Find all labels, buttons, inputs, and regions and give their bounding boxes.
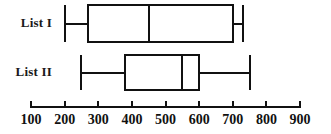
row-label-list-1: List I — [0, 15, 52, 31]
axis-tick-label-900: 900 — [290, 112, 311, 128]
box-list-ii — [125, 55, 199, 90]
axis-tick-label-600: 600 — [189, 112, 210, 128]
axis-tick-label-400: 400 — [121, 112, 142, 128]
axis-tick-label-800: 800 — [256, 112, 277, 128]
box-list-i — [88, 5, 233, 42]
axis-line-group — [31, 101, 300, 108]
row-label-list-2: List II — [0, 64, 52, 80]
boxplot-row-list-2 — [81, 55, 249, 90]
axis-tick-label-700: 700 — [222, 112, 243, 128]
boxplot-figure: List I List II 1002003004005006007008009… — [0, 0, 331, 134]
axis-tick-label-500: 500 — [155, 112, 176, 128]
axis-tick-label-200: 200 — [54, 112, 75, 128]
axis-tick-label-300: 300 — [88, 112, 109, 128]
boxplot-row-list-1 — [65, 5, 243, 42]
axis-tick-label-100: 100 — [21, 112, 42, 128]
